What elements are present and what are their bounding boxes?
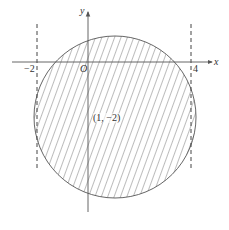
x-axis-label: x	[214, 57, 218, 67]
tick-label-4: 4	[193, 64, 198, 74]
center-label: (1, −2)	[93, 113, 120, 123]
y-axis-label: y	[80, 6, 84, 16]
tick-label-neg2: −2	[24, 64, 35, 74]
origin-label: O	[80, 64, 87, 74]
